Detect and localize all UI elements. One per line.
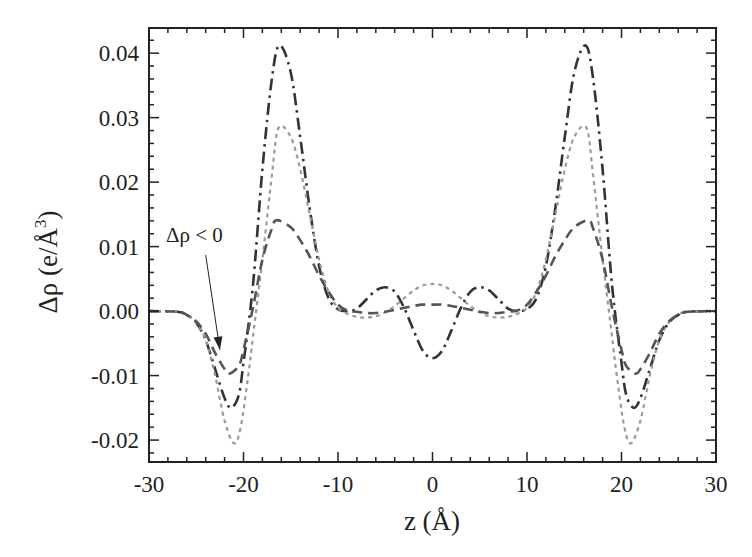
y-axis-title-superscript: 3 [31,219,50,228]
y-tick-label: 0.00 [99,299,139,324]
plot-frame [149,28,716,462]
y-tick-label: -0.02 [91,428,139,453]
x-tick-label: -20 [228,472,259,497]
x-tick-labels: -30-20-100102030 [134,472,728,497]
x-axis-ticks [149,28,716,462]
x-tick-label: 30 [705,472,728,497]
x-axis-title: z (Å) [404,506,460,536]
y-tick-label: 0.02 [99,170,139,195]
series-group [149,45,716,443]
series-line-dotted [149,126,716,444]
x-tick-label: 0 [427,472,439,497]
y-tick-label: 0.03 [99,106,139,131]
y-tick-label: -0.01 [91,364,139,389]
y-tick-label: 0.04 [99,41,140,66]
x-tick-label: 10 [516,472,539,497]
x-tick-label: -10 [323,472,354,497]
series-line-dashed [149,220,716,374]
annotation-label: Δρ < 0 [166,223,223,247]
y-tick-labels: -0.02-0.010.000.010.020.030.04 [91,41,139,453]
y-tick-label: 0.01 [99,235,139,260]
line-chart: -30-20-100102030 -0.02-0.010.000.010.020… [0,0,752,557]
x-tick-label: 20 [610,472,633,497]
y-axis-title-main: Δρ (e/Å [33,227,63,313]
y-axis-ticks [149,40,716,453]
x-tick-label: -30 [134,472,165,497]
y-axis-title-close: ) [33,210,63,219]
series-line-dash-dot [149,45,716,408]
annotation-arrowhead-icon [214,336,223,350]
y-axis-title: Δρ (e/Å3) [31,210,63,313]
